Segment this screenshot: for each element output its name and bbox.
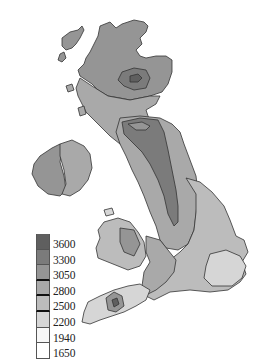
legend-label: 2200: [53, 316, 75, 328]
legend-swatch: [36, 343, 50, 359]
region-hebrides-south: [58, 52, 66, 62]
legend-swatch: [36, 265, 50, 281]
legend-label: 2800: [53, 285, 75, 297]
legend-row-2800: 2800: [36, 281, 96, 297]
legend-label: 2500: [53, 300, 75, 312]
legend-swatch: [36, 296, 50, 312]
legend-swatch: [36, 328, 50, 344]
legend-label: 1650: [53, 347, 75, 359]
region-isle: [66, 84, 74, 92]
map-legend: 3600 3300 3050 2800 2500 2200 1940 1650: [36, 234, 96, 359]
legend-label: 1940: [53, 332, 75, 344]
legend-row-3600: 3600: [36, 234, 96, 250]
legend-row-1650: 1650: [36, 343, 96, 359]
legend-row-3050: 3050: [36, 265, 96, 281]
legend-swatch: [36, 312, 50, 328]
legend-label: 3600: [53, 238, 75, 250]
legend-row-2200: 2200: [36, 312, 96, 328]
legend-label: 3300: [53, 254, 75, 266]
legend-row-3300: 3300: [36, 250, 96, 266]
legend-label: 3050: [53, 269, 75, 281]
legend-swatch: [36, 250, 50, 266]
legend-row-1940: 1940: [36, 328, 96, 344]
region-outer-hebrides: [62, 26, 84, 50]
region-anglesey: [104, 208, 114, 216]
legend-row-2500: 2500: [36, 296, 96, 312]
legend-swatch: [36, 234, 50, 250]
legend-swatch: [36, 281, 50, 297]
region-ireland-east: [60, 140, 92, 196]
